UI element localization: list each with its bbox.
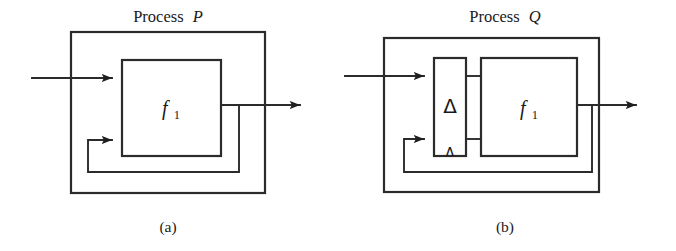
panel-b-title-prefix: Process bbox=[469, 7, 519, 26]
panel-a-caption: (a) bbox=[159, 218, 176, 236]
panel-a-function-label-base: f bbox=[162, 97, 170, 120]
block-diagram-svg: Process P f 1 (a) P bbox=[0, 0, 676, 251]
panel-b-group: Process Q Δ Δ bbox=[345, 7, 636, 236]
panel-b-function-label-base: f bbox=[520, 97, 528, 120]
panel-b-function-label-sub: 1 bbox=[532, 108, 538, 122]
panel-a-function-label-sub: 1 bbox=[174, 108, 180, 122]
panel-a-title-prefix: Process bbox=[133, 7, 183, 26]
figure-container: Process P f 1 (a) P bbox=[0, 0, 676, 251]
panel-b-delay-label: Δ bbox=[443, 94, 457, 118]
panel-b-title-symbol: Q bbox=[529, 7, 541, 26]
panel-a-title: Process P bbox=[133, 7, 203, 26]
panel-b-title: Process Q bbox=[469, 7, 541, 26]
panel-a-group: Process P f 1 (a) bbox=[32, 7, 300, 236]
panel-a-title-symbol: P bbox=[192, 7, 203, 26]
panel-b-caption: (b) bbox=[496, 218, 514, 236]
